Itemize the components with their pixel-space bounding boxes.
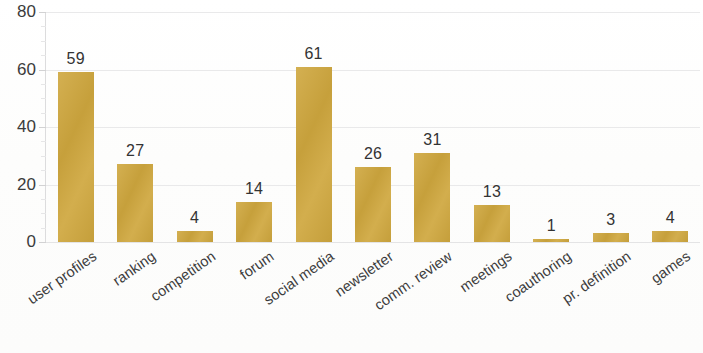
- bar-slot[interactable]: 4: [177, 12, 213, 242]
- x-axis-tick-label: forum: [237, 248, 277, 283]
- x-axis-tick-label-wrap: user profiles: [24, 248, 99, 307]
- x-axis-tick-label-wrap: competition: [147, 248, 218, 304]
- bar[interactable]: [474, 205, 510, 242]
- bar-value-label: 13: [460, 184, 524, 200]
- y-axis-major-tick: [39, 242, 46, 243]
- x-axis-tick-label-wrap: forum: [237, 248, 277, 283]
- bar-slot[interactable]: 1: [533, 12, 569, 242]
- y-axis-tick-label: 0: [0, 233, 36, 250]
- x-axis-tick-label: competition: [147, 248, 218, 304]
- y-axis-major-tick: [39, 12, 46, 13]
- bar[interactable]: [533, 239, 569, 242]
- y-axis-major-tick: [39, 185, 46, 186]
- bar-slot[interactable]: 14: [236, 12, 272, 242]
- plot-area: 592741461263113134: [46, 12, 700, 242]
- bar-value-label: 61: [282, 46, 346, 62]
- bar-slot[interactable]: 26: [355, 12, 391, 242]
- bar-slot[interactable]: 61: [296, 12, 332, 242]
- bar[interactable]: [652, 231, 688, 243]
- bar-slot[interactable]: 3: [593, 12, 629, 242]
- bar[interactable]: [117, 164, 153, 242]
- y-axis-major-tick: [39, 127, 46, 128]
- y-axis-tick-label: 80: [0, 3, 36, 20]
- gridline: [46, 242, 700, 243]
- y-axis-tick-label: 20: [0, 176, 36, 193]
- bar-value-label: 1: [519, 218, 583, 234]
- bar[interactable]: [296, 67, 332, 242]
- bar-slot[interactable]: 31: [414, 12, 450, 242]
- bar[interactable]: [58, 72, 94, 242]
- y-axis-major-tick: [39, 70, 46, 71]
- bar-value-label: 31: [400, 132, 464, 148]
- bar-value-label: 4: [638, 210, 702, 226]
- bar-value-label: 14: [222, 181, 286, 197]
- x-axis-tick-label: user profiles: [24, 248, 99, 307]
- y-axis-tick-label: 40: [0, 118, 36, 135]
- bar-slot[interactable]: 13: [474, 12, 510, 242]
- bar[interactable]: [593, 233, 629, 242]
- x-axis-tick-label-wrap: games: [648, 248, 693, 286]
- x-axis-tick-label: ranking: [110, 248, 159, 289]
- bar-chart: 020406080 592741461263113134 user profil…: [0, 0, 703, 353]
- bar[interactable]: [414, 153, 450, 242]
- x-axis-tick-label-wrap: ranking: [110, 248, 159, 289]
- bar-value-label: 26: [341, 146, 405, 162]
- bar-slot[interactable]: 59: [58, 12, 94, 242]
- bar-value-label: 59: [44, 51, 108, 67]
- bar[interactable]: [355, 167, 391, 242]
- bar[interactable]: [177, 231, 213, 243]
- bar-slot[interactable]: 4: [652, 12, 688, 242]
- bar-value-label: 27: [103, 143, 167, 159]
- bar[interactable]: [236, 202, 272, 242]
- x-axis-tick-label: games: [648, 248, 693, 286]
- bar-value-label: 3: [579, 212, 643, 228]
- bar-value-label: 4: [163, 210, 227, 226]
- bar-slot[interactable]: 27: [117, 12, 153, 242]
- y-axis-tick-label: 60: [0, 61, 36, 78]
